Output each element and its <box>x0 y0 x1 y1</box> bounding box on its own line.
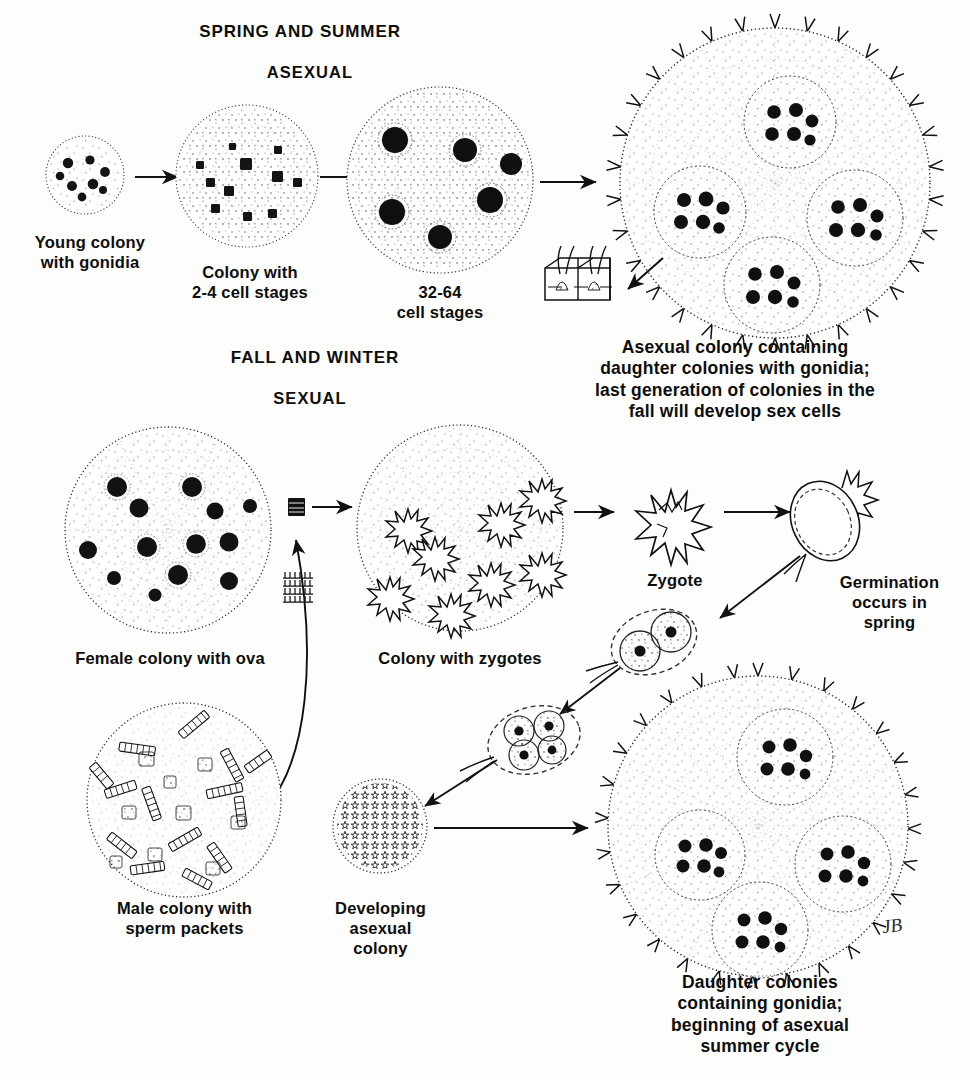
germinating-zygote <box>778 470 878 582</box>
sperm-packet-icon <box>283 572 313 602</box>
caption-female-colony: Female colony with ova <box>40 648 300 668</box>
caption-colony-zygotes: Colony with zygotes <box>340 648 580 668</box>
arrow-fourcell-to-developing <box>425 760 497 806</box>
caption-zygote: Zygote <box>620 570 730 590</box>
colony-with-zygotes <box>357 425 566 638</box>
artist-signature: JB <box>881 914 904 939</box>
daughter-colonies-final <box>595 663 921 989</box>
caption-young-colony: Young colony with gonidia <box>5 232 175 272</box>
daughter-colony <box>724 237 820 333</box>
volvox-life-cycle-diagram: SPRING AND SUMMER ASEXUAL FALL AND WINTE… <box>0 0 970 1080</box>
arrow-twocell-to-fourcell <box>560 668 620 714</box>
caption-developing-colony: Developing asexual colony <box>303 898 458 958</box>
daughter-colony <box>744 76 836 168</box>
daughter-colony <box>712 882 808 978</box>
colony-32-64-cell <box>347 87 533 273</box>
two-cell-germination-stage <box>586 598 706 686</box>
caption-32-64-cell: 32-64 cell stages <box>350 282 530 322</box>
sperm-packet-arriving <box>288 498 305 516</box>
caption-germination: Germination occurs in spring <box>812 572 967 632</box>
caption-2-4-cell: Colony with 2-4 cell stages <box>160 262 340 302</box>
caption-male-colony: Male colony with sperm packets <box>72 898 297 938</box>
colony-2-4-cell <box>176 105 318 247</box>
male-colony <box>87 703 281 897</box>
zygote-spiny <box>636 490 711 565</box>
daughter-colony <box>795 816 891 912</box>
caption-asexual-colony: Asexual colony containing daughter colon… <box>525 337 945 422</box>
caption-daughter-colonies: Daughter colonies containing gonidia; be… <box>570 972 950 1057</box>
young-colony <box>46 136 124 214</box>
daughter-colony <box>654 166 746 258</box>
female-colony <box>65 427 271 633</box>
developing-asexual-colony <box>333 779 427 873</box>
cell-detail-inset <box>545 246 612 300</box>
daughter-colony <box>737 709 833 805</box>
arrow-germ-to-twocell <box>720 556 800 618</box>
daughter-colony <box>655 810 745 900</box>
daughter-colony <box>807 170 903 266</box>
